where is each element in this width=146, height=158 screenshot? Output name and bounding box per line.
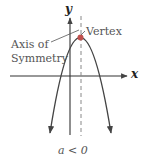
caption: a < 0 [58, 145, 88, 156]
vertex-point [78, 35, 84, 41]
parabola-diagram [0, 0, 146, 158]
axis-of-symmetry-label-line2: Symmetry [11, 53, 68, 64]
axis-of-symmetry-label-line1: Axis of [11, 39, 49, 50]
vertex-label: Vertex [86, 26, 122, 37]
vertex-pointer [81, 31, 85, 35]
y-axis-label: y [65, 3, 72, 15]
x-axis-label: x [131, 68, 138, 80]
